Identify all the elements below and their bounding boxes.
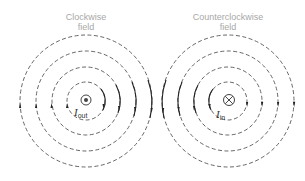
current-in-label: Iin (215, 108, 225, 121)
arrow-down-icon (293, 102, 295, 107)
left-solid-arcs (101, 80, 152, 118)
arrow-down-icon (261, 102, 263, 107)
current-in-icon (224, 95, 235, 106)
magnetic-field-diagram: Iout Iin (0, 0, 305, 181)
current-out-icon (81, 95, 91, 105)
current-out-label: Iout (73, 106, 87, 119)
arrow-up-icon (51, 103, 53, 108)
arrow-up-icon (19, 103, 21, 108)
right-arrows (162, 102, 295, 113)
arrow-up-icon (35, 103, 37, 108)
arrow-down-icon (277, 102, 279, 107)
right-solid-arcs (162, 80, 213, 118)
